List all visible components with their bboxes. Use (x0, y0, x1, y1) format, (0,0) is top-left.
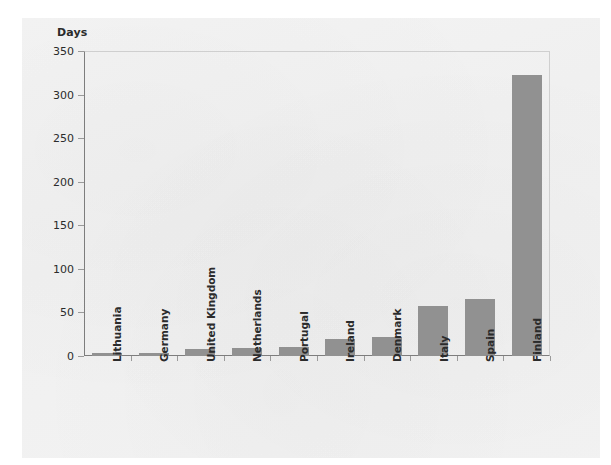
x-tick-mark (364, 356, 365, 361)
x-tick-mark (503, 356, 504, 361)
x-tick-mark (224, 356, 225, 361)
bar-slot (224, 51, 271, 356)
bar-slot (317, 51, 364, 356)
x-tick-mark (317, 356, 318, 361)
x-tick-mark (550, 356, 551, 361)
chart-figure: Days 050100150200250300350 LithuaniaGerm… (0, 0, 611, 465)
bar-slot (457, 51, 504, 356)
y-tick-label: 0 (67, 350, 74, 363)
x-axis-label: Spain (484, 329, 496, 362)
bar-slot (84, 51, 131, 356)
x-tick-mark (270, 356, 271, 361)
x-axis-label: Portugal (298, 311, 310, 362)
x-axis-label: Finland (531, 318, 543, 362)
x-axis-label: Germany (158, 309, 170, 362)
bar-slot (364, 51, 411, 356)
x-axis-label: Lithuania (111, 306, 123, 362)
x-axis-label: Netherlands (251, 289, 263, 362)
x-tick-mark (457, 356, 458, 361)
y-tick-label: 300 (53, 88, 74, 101)
bar-slot (503, 51, 550, 356)
x-axis-label: Italy (438, 336, 450, 362)
bar-series (84, 51, 550, 356)
bar-slot (410, 51, 457, 356)
y-tick-label: 200 (53, 175, 74, 188)
y-tick-label: 50 (60, 306, 74, 319)
y-tick-mark (78, 356, 84, 357)
y-tick-label: 150 (53, 219, 74, 232)
x-axis-label: Ireland (344, 320, 356, 362)
x-tick-mark (410, 356, 411, 361)
y-tick-label: 100 (53, 262, 74, 275)
y-tick-label: 250 (53, 132, 74, 145)
x-tick-mark (177, 356, 178, 361)
bar[interactable] (512, 75, 542, 356)
x-axis-label: Denmark (391, 309, 403, 363)
x-axis-label: United Kingdom (205, 267, 217, 362)
x-tick-mark (131, 356, 132, 361)
y-axis-title: Days (57, 26, 87, 39)
bar-slot (131, 51, 178, 356)
y-tick-label: 350 (53, 45, 74, 58)
